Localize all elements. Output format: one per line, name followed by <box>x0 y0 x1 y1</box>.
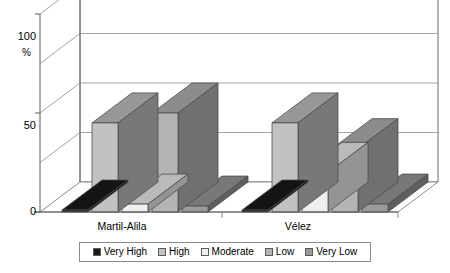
legend-swatch-icon <box>265 248 273 256</box>
y-axis-unit-percent: % <box>22 47 31 58</box>
y-axis-tick-50: 50 <box>8 120 36 131</box>
legend-item-label: Low <box>276 247 294 257</box>
legend-item-high[interactable]: High <box>158 247 190 257</box>
legend-item-low[interactable]: Low <box>265 247 294 257</box>
legend-swatch-icon <box>305 248 313 256</box>
legend-item-label: Very Low <box>316 247 357 257</box>
legend-items: Very HighHighModerateLowVery Low <box>93 247 358 257</box>
legend-swatch-icon <box>93 248 101 256</box>
legend-item-moderate[interactable]: Moderate <box>201 247 254 257</box>
legend-item-very-high[interactable]: Very High <box>93 247 147 257</box>
legend-item-label: Moderate <box>212 247 254 257</box>
legend: Very HighHighModerateLowVery Low <box>79 242 371 262</box>
legend-item-label: High <box>169 247 190 257</box>
chart-canvas <box>0 0 450 273</box>
legend-swatch-icon <box>201 248 209 256</box>
y-axis-tick-100: 100 <box>8 31 36 42</box>
x-axis-category-velez: Vélez <box>238 220 358 232</box>
bar-chart-3d: 100 % 50 0 Martil-Alila Vélez Very HighH… <box>0 0 450 273</box>
legend-item-label: Very High <box>104 247 147 257</box>
y-axis-tick-0: 0 <box>8 206 36 217</box>
x-axis-category-martil-alila: Martil-Alila <box>62 220 182 232</box>
legend-swatch-icon <box>158 248 166 256</box>
legend-item-very-low[interactable]: Very Low <box>305 247 357 257</box>
plot-area <box>0 0 450 273</box>
